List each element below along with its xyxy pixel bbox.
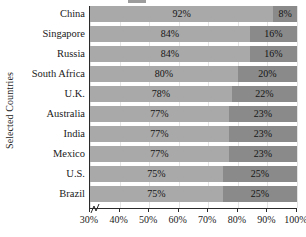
bar-row: 78%22% xyxy=(90,86,297,102)
stacked-bar-chart: Selected Countries ChinaSingaporeRussiaS… xyxy=(0,0,306,237)
x-axis-tick-label: 40% xyxy=(103,214,135,225)
bar-value-label-first: 92% xyxy=(169,6,195,22)
bar-value-label-second: 23% xyxy=(250,126,276,142)
legend-swatch xyxy=(128,0,146,3)
category-label-column: ChinaSingaporeRussiaSouth AfricaU.K.Aust… xyxy=(6,6,87,208)
x-axis-tick xyxy=(296,208,297,212)
bar-row: 75%25% xyxy=(90,186,297,202)
category-label: South Africa xyxy=(32,66,85,82)
bar-value-label-second: 16% xyxy=(260,26,286,42)
bar-value-label-second: 23% xyxy=(250,146,276,162)
bar-value-label-first: 84% xyxy=(157,26,183,42)
x-axis-tick-label: 90% xyxy=(250,214,282,225)
bar-row: 77%23% xyxy=(90,146,297,162)
x-axis-tick-label: 100% xyxy=(280,214,306,225)
bar-value-label-first: 84% xyxy=(157,46,183,62)
bar-value-label-second: 20% xyxy=(254,66,280,82)
bar-row: 75%25% xyxy=(90,166,297,182)
category-label: U.S. xyxy=(66,166,85,182)
bar-value-label-first: 75% xyxy=(144,186,170,202)
category-label: Brazil xyxy=(59,186,85,202)
x-axis-tick-label: 80% xyxy=(221,214,253,225)
category-label: Australia xyxy=(47,106,86,122)
bar-value-label-second: 16% xyxy=(260,46,286,62)
x-axis-tick-label: 70% xyxy=(191,214,223,225)
x-axis-tick xyxy=(266,208,267,212)
x-axis-line xyxy=(89,208,296,209)
x-axis-tick xyxy=(119,208,120,212)
category-label: China xyxy=(60,6,85,22)
x-axis-tick-label: 60% xyxy=(162,214,194,225)
bar-value-label-first: 80% xyxy=(151,66,177,82)
bar-value-label-first: 75% xyxy=(144,166,170,182)
x-axis-tick xyxy=(178,208,179,212)
category-label: Singapore xyxy=(42,26,85,42)
gridline xyxy=(297,6,298,208)
bar-row: 80%20% xyxy=(90,66,297,82)
category-label: Mexico xyxy=(53,146,85,162)
x-axis-tick xyxy=(207,208,208,212)
plot-area: 92%8%84%16%84%16%80%20%78%22%77%23%77%23… xyxy=(89,6,297,208)
x-axis-tick-label: 50% xyxy=(132,214,164,225)
category-label: India xyxy=(63,126,85,142)
bar-value-label-first: 77% xyxy=(146,146,172,162)
x-axis-tick xyxy=(237,208,238,212)
bar-value-label-second: 23% xyxy=(250,106,276,122)
category-label: Russia xyxy=(57,46,85,62)
bar-row: 92%8% xyxy=(90,6,297,22)
bar-value-label-first: 77% xyxy=(146,106,172,122)
bar-row: 84%16% xyxy=(90,46,297,62)
x-axis-tick-label: 30% xyxy=(73,214,105,225)
bar-row: 84%16% xyxy=(90,26,297,42)
bar-value-label-second: 22% xyxy=(251,86,277,102)
bar-value-label-second: 25% xyxy=(247,166,273,182)
bar-value-label-first: 77% xyxy=(146,126,172,142)
bar-value-label-second: 25% xyxy=(247,186,273,202)
chart-legend xyxy=(0,0,306,5)
bar-row: 77%23% xyxy=(90,126,297,142)
bar-value-label-first: 78% xyxy=(148,86,174,102)
x-axis-tick xyxy=(148,208,149,212)
axis-break-icon xyxy=(90,203,102,214)
category-label: U.K. xyxy=(65,86,85,102)
bar-row: 77%23% xyxy=(90,106,297,122)
x-axis-tick xyxy=(89,208,90,212)
bar-value-label-second: 8% xyxy=(272,6,298,22)
